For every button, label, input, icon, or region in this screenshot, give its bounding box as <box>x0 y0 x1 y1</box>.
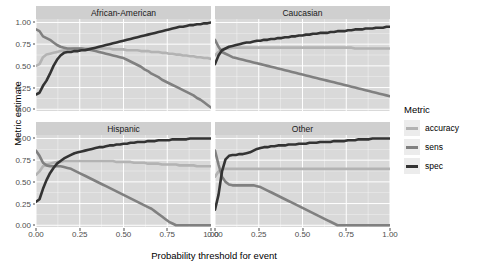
legend-item-label: accuracy <box>425 123 459 133</box>
facet-strip-label: Other <box>215 122 390 135</box>
y-tick-mark <box>33 44 36 45</box>
legend-item-label: sens <box>425 142 443 152</box>
x-tick-mark <box>36 228 37 231</box>
facet-panel-hispanic: Hispanic <box>36 122 211 227</box>
legend-key-box <box>404 120 420 136</box>
facet-title-text: African-American <box>91 8 156 18</box>
x-axis-title: Probability threshold for event <box>33 250 395 261</box>
y-tick-label: 0.00 <box>1 221 31 230</box>
y-tick-mark <box>33 160 36 161</box>
y-tick-label: 1.00 <box>1 18 31 27</box>
y-tick-label: 1.00 <box>1 134 31 143</box>
x-tick-mark <box>258 228 259 231</box>
facet-plot-area <box>36 19 211 111</box>
y-tick-label: 0.50 <box>1 177 31 186</box>
legend-key-box <box>404 158 420 174</box>
x-tick-label: 0.00 <box>19 230 53 239</box>
x-tick-mark <box>167 228 168 231</box>
facet-strip-label: Caucasian <box>215 6 390 19</box>
facet-plot-area <box>215 19 390 111</box>
x-tick-mark <box>346 228 347 231</box>
y-tick-mark <box>33 22 36 23</box>
x-tick-mark <box>79 228 80 231</box>
legend-color-swatch <box>406 146 418 149</box>
y-tick-mark <box>33 109 36 110</box>
y-tick-label: 0.50 <box>1 61 31 70</box>
facet-title-text: Caucasian <box>282 8 322 18</box>
facet-plot-area <box>36 135 211 227</box>
x-tick-mark <box>390 228 391 231</box>
x-tick-label: 0.75 <box>150 230 184 239</box>
facet-panel-caucasian: Caucasian <box>215 6 390 111</box>
x-tick-mark <box>215 228 216 231</box>
x-tick-label: 0.50 <box>286 230 320 239</box>
legend-color-swatch <box>406 127 418 130</box>
facet-title-text: Other <box>292 124 313 134</box>
legend-item-spec[interactable]: spec <box>404 158 459 174</box>
x-tick-label: 0.50 <box>107 230 141 239</box>
y-tick-label: 0.00 <box>1 105 31 114</box>
facet-plot-area <box>215 135 390 227</box>
x-tick-label: 0.75 <box>329 230 363 239</box>
facet-panel-other: Other <box>215 122 390 227</box>
y-tick-label: 0.25 <box>1 199 31 208</box>
legend-color-swatch <box>406 165 418 168</box>
x-tick-label: 0.25 <box>63 230 97 239</box>
legend-item-label: spec <box>425 161 443 171</box>
y-tick-mark <box>33 181 36 182</box>
legend: Metric accuracysensspec <box>404 104 459 177</box>
x-tick-label: 1.00 <box>373 230 407 239</box>
legend-item-list: accuracysensspec <box>404 120 459 174</box>
y-tick-mark <box>33 138 36 139</box>
y-tick-mark <box>33 65 36 66</box>
y-tick-label: 0.75 <box>1 156 31 165</box>
legend-item-accuracy[interactable]: accuracy <box>404 120 459 136</box>
y-tick-mark <box>33 203 36 204</box>
y-tick-mark <box>33 225 36 226</box>
y-tick-label: 0.25 <box>1 83 31 92</box>
y-tick-mark <box>33 87 36 88</box>
x-tick-label: 0.00 <box>198 230 232 239</box>
x-tick-mark <box>123 228 124 231</box>
facet-title-text: Hispanic <box>107 124 140 134</box>
facet-panel-african-american: African-American <box>36 6 211 111</box>
x-tick-label: 0.25 <box>242 230 276 239</box>
x-tick-mark <box>302 228 303 231</box>
y-tick-label: 0.75 <box>1 40 31 49</box>
legend-key-box <box>404 139 420 155</box>
facet-strip-label: African-American <box>36 6 211 19</box>
facet-strip-label: Hispanic <box>36 122 211 135</box>
legend-title: Metric <box>404 104 459 115</box>
chart-root: Metric estimate Probability threshold fo… <box>0 0 494 268</box>
legend-item-sens[interactable]: sens <box>404 139 459 155</box>
